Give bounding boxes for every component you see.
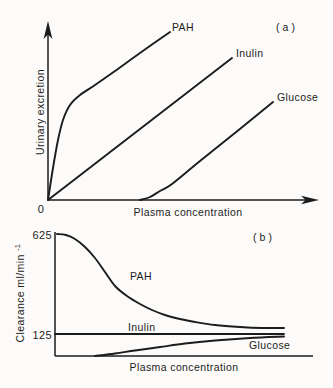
panel-b-curves — [55, 234, 284, 356]
panel-a-tag: (a) — [276, 21, 298, 33]
panel-b-glucose-curve-label: Glucose — [249, 339, 290, 351]
panel-a-pah-curve — [48, 32, 170, 200]
panel-b-tag: (b) — [253, 231, 275, 243]
panel-a-inulin-curve-label: Inulin — [236, 47, 264, 59]
panel-a-glucose-curve — [140, 102, 273, 200]
panel-a-glucose-curve-label: Glucose — [277, 91, 318, 103]
panel-a-x-axis-label: Plasma concentration — [134, 206, 243, 218]
panel-b-inulin-curve-label: Inulin — [128, 321, 156, 333]
panel-b-y-axis-label-main: Clearance ml/min — [14, 254, 26, 342]
panel-b-ytick-625: 625 — [32, 229, 52, 241]
panel-b: 625 125 PAH Inulin Glucose (b) Plasma co… — [13, 229, 313, 373]
renal-clearance-figure: PAH Inulin Glucose (a) 0 Plasma concentr… — [0, 0, 333, 388]
panel-a-y-axis-label: Urinary excretion — [34, 69, 46, 155]
panel-a: PAH Inulin Glucose (a) 0 Plasma concentr… — [34, 21, 319, 218]
figure-canvas: PAH Inulin Glucose (a) 0 Plasma concentr… — [0, 0, 333, 388]
panel-b-x-axis-label: Plasma concentration — [130, 361, 239, 373]
panel-a-inulin-curve — [48, 58, 232, 200]
panel-b-pah-curve — [57, 234, 284, 328]
panel-b-y-axis-label: Clearance ml/min -1 — [13, 244, 26, 343]
panel-b-pah-curve-label: PAH — [130, 270, 152, 282]
panel-b-ytick-125: 125 — [32, 329, 52, 341]
panel-a-pah-curve-label: PAH — [172, 21, 194, 33]
panel-b-y-axis-label-superscript: -1 — [13, 244, 22, 251]
panel-a-origin-label: 0 — [38, 203, 45, 215]
